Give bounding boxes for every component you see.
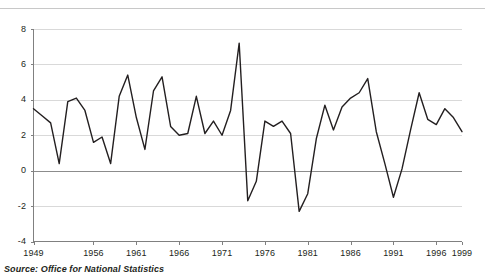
x-tick-label: 1981 [288,249,328,258]
gridlines-group [34,30,463,207]
y-tick-label: -4 [4,237,26,246]
line-chart-plot [0,0,485,280]
y-tick-label: 8 [4,25,26,34]
x-tick-label: 1999 [442,249,482,258]
y-tick-label: 4 [4,95,26,104]
x-tick-label: 1966 [159,249,199,258]
x-tick-label: 1986 [331,249,371,258]
chart-figure: -4-202468 194919561961196619711976198119… [0,0,485,280]
x-tick-label: 1971 [202,249,242,258]
x-tick-label: 1991 [373,249,413,258]
data-series-line [34,43,463,211]
x-tick-label: 1956 [73,249,113,258]
y-tick-label: 2 [4,131,26,140]
y-tick-label: 6 [4,60,26,69]
source-note: Source: Office for National Statistics [4,264,164,274]
y-tick-label: 0 [4,166,26,175]
x-tick-label: 1961 [116,249,156,258]
y-tick-label: -2 [4,202,26,211]
tickmarks-group [31,30,463,245]
x-tick-label: 1976 [245,249,285,258]
x-tick-label: 1949 [14,249,54,258]
